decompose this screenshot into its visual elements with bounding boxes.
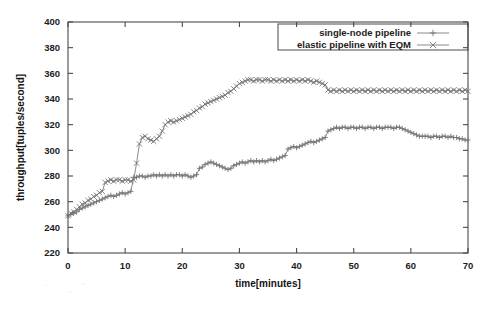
y-tick-label: 300	[44, 145, 60, 156]
series-cross	[65, 77, 470, 218]
y-tick-label: 360	[44, 68, 60, 79]
x-axis-title: time[minutes]	[235, 278, 301, 289]
chart-figure: 2202402602803003203403603804000102030405…	[0, 0, 488, 310]
y-tick-label: 240	[44, 222, 60, 233]
y-axis-title: throughput[tuples/second]	[15, 74, 26, 201]
x-tick-label: 70	[463, 260, 474, 271]
y-tick-label: 320	[44, 119, 60, 130]
legend-label: single-node pipeline	[319, 27, 411, 38]
axes: 2202402602803003203403603804000102030405…	[44, 16, 473, 271]
chart-legend: single-node pipelineelastic pipeline wit…	[278, 24, 468, 50]
series-plus	[65, 125, 470, 219]
y-tick-label: 280	[44, 170, 60, 181]
x-tick-label: 30	[234, 260, 245, 271]
x-tick-label: 50	[348, 260, 359, 271]
x-tick-label: 40	[291, 260, 302, 271]
legend-label: elastic pipeline with EQM	[297, 39, 411, 50]
x-tick-label: 0	[65, 260, 70, 271]
y-tick-label: 220	[44, 247, 60, 258]
x-tick-label: 10	[120, 260, 131, 271]
x-tick-label: 60	[406, 260, 417, 271]
x-tick-label: 20	[177, 260, 188, 271]
y-tick-label: 340	[44, 93, 60, 104]
data-series	[65, 77, 470, 218]
y-tick-label: 380	[44, 42, 60, 53]
throughput-line-chart: 2202402602803003203403603804000102030405…	[0, 0, 488, 310]
y-tick-label: 260	[44, 196, 60, 207]
y-tick-label: 400	[44, 16, 60, 27]
